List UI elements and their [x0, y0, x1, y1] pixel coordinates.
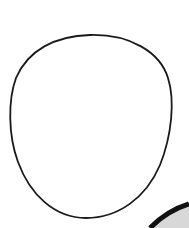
- drawing-canvas: [0, 0, 189, 228]
